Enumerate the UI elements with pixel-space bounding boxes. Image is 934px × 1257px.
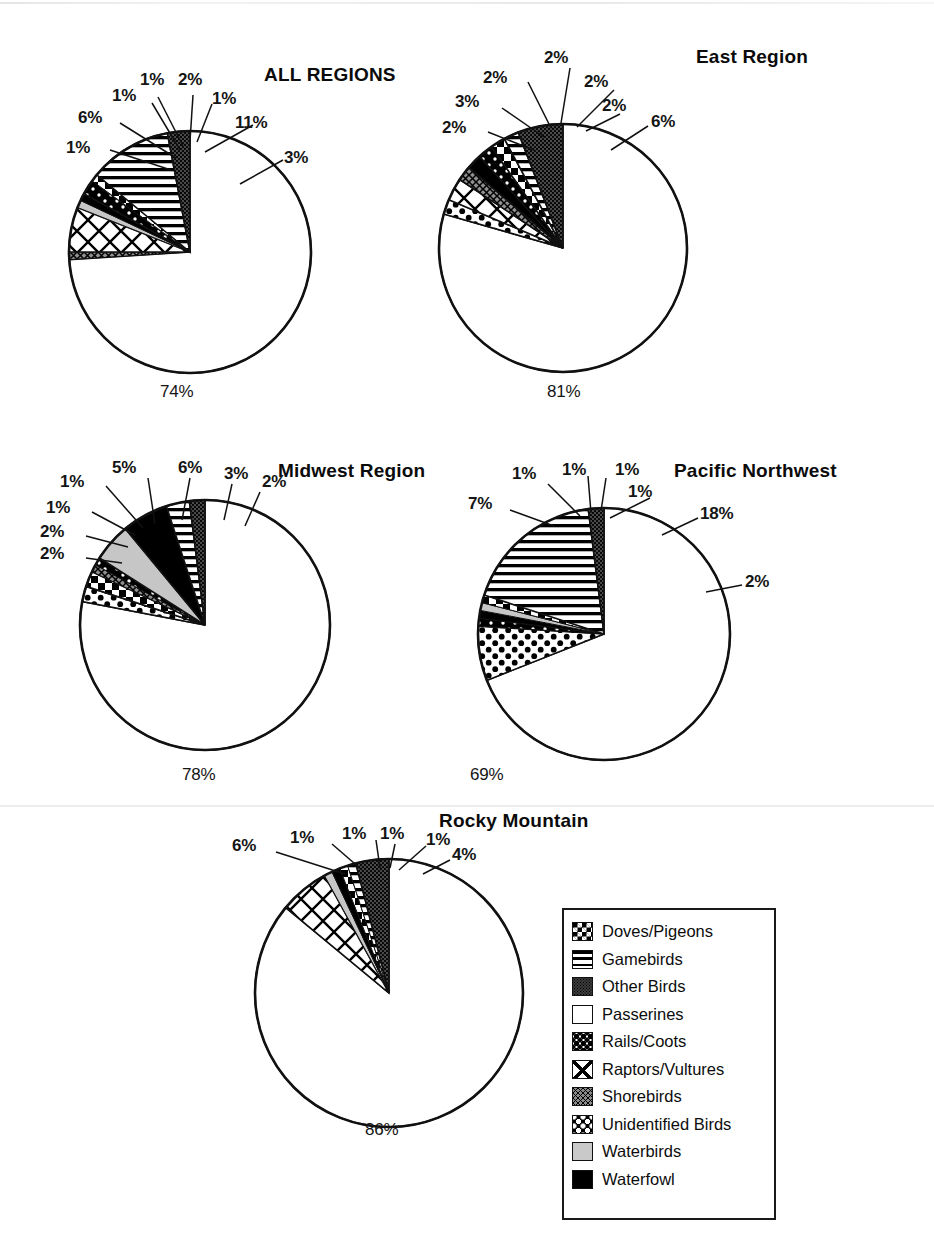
callout-east-region-3: 2% bbox=[483, 68, 507, 88]
callout-midwest-region-6: 6% bbox=[178, 458, 202, 478]
callout-rocky-mountain-5: 1% bbox=[426, 830, 450, 850]
legend-item-label: Gamebirds bbox=[602, 950, 683, 969]
callout-midwest-region-5: 5% bbox=[112, 458, 136, 478]
callout-pacific-northwest-2: 1% bbox=[512, 464, 536, 484]
panel-east-region: East Region 2% 3% 2% 2% 2% 2% 6% 81% bbox=[420, 0, 934, 415]
dark-stipple-swatch-icon bbox=[572, 977, 593, 996]
callout-rocky-mountain-6: 4% bbox=[452, 845, 476, 865]
solid-black-swatch-icon bbox=[572, 1170, 593, 1189]
coarse-dots-swatch-icon bbox=[572, 1032, 593, 1051]
callout-all-regions-5: 2% bbox=[178, 70, 202, 90]
callout-pacific-northwest-4: 1% bbox=[615, 460, 639, 480]
callout-pacific-northwest-1: 7% bbox=[468, 494, 492, 514]
legend-item[interactable]: Shorebirds bbox=[572, 1083, 764, 1111]
legend-item-label: Waterbirds bbox=[602, 1142, 681, 1161]
callout-east-region-4: 2% bbox=[544, 48, 568, 68]
callout-pacific-northwest-6: 18% bbox=[700, 504, 733, 524]
callout-east-region-7: 6% bbox=[651, 112, 675, 132]
legend-item[interactable]: Raptors/Vultures bbox=[572, 1056, 764, 1084]
light-gray-swatch-icon bbox=[572, 1142, 593, 1161]
callout-all-regions-2: 6% bbox=[78, 108, 102, 128]
callout-east-region-5: 2% bbox=[584, 72, 608, 92]
checkerboard-swatch-icon bbox=[572, 922, 593, 941]
callout-all-regions-8: 3% bbox=[284, 148, 308, 168]
callout-rocky-mountain-2: 1% bbox=[290, 828, 314, 848]
callout-pacific-northwest-5: 1% bbox=[628, 482, 652, 502]
legend-item[interactable]: Passerines bbox=[572, 1001, 764, 1029]
callout-east-region-6: 2% bbox=[602, 96, 626, 116]
pie-pacific-northwest bbox=[440, 380, 934, 790]
callout-rocky-mountain-3: 1% bbox=[342, 824, 366, 844]
bottom-label-pacific-northwest: 69% bbox=[470, 765, 503, 785]
pie-all-regions bbox=[0, 0, 460, 415]
callout-midwest-region-2: 2% bbox=[40, 522, 64, 542]
white-swatch-icon bbox=[572, 1005, 593, 1024]
callout-rocky-mountain-1: 6% bbox=[232, 836, 256, 856]
callout-midwest-region-4: 1% bbox=[60, 472, 84, 492]
chart-title-east-region: East Region bbox=[696, 46, 808, 68]
callout-midwest-region-7: 3% bbox=[224, 464, 248, 484]
callout-midwest-region-8: 2% bbox=[262, 472, 286, 492]
legend-item-label: Doves/Pigeons bbox=[602, 922, 713, 941]
panel-all-regions: ALL REGIONS 1% 6% 1% 1% 2% 1% 11% 3% 74% bbox=[0, 0, 460, 415]
large-crosshatch-swatch-icon bbox=[572, 1060, 593, 1079]
callout-all-regions-7: 11% bbox=[235, 113, 268, 133]
pie-midwest-region bbox=[0, 380, 470, 790]
panel-midwest-region: Midwest Region 2% 2% 1% 1% 5% 6% 3% 2% 7… bbox=[0, 380, 470, 790]
horizontal-lines-swatch-icon bbox=[572, 950, 593, 969]
legend-item[interactable]: Gamebirds bbox=[572, 946, 764, 974]
chart-title-pacific-northwest: Pacific Northwest bbox=[674, 460, 837, 482]
callout-rocky-mountain-4: 1% bbox=[380, 824, 404, 844]
pie-east-region bbox=[420, 0, 934, 415]
bird-group-legend: Doves/Pigeons Gamebirds Other Birds Pass… bbox=[562, 908, 776, 1220]
legend-item[interactable]: Other Birds bbox=[572, 973, 764, 1001]
legend-item-label: Rails/Coots bbox=[602, 1032, 686, 1051]
bottom-label-rocky-mountain: 86% bbox=[365, 1120, 398, 1140]
chart-title-midwest-region: Midwest Region bbox=[278, 460, 425, 482]
callout-pacific-northwest-3: 1% bbox=[562, 460, 586, 480]
legend-item-label: Waterfowl bbox=[602, 1170, 675, 1189]
callout-east-region-2: 3% bbox=[455, 92, 479, 112]
legend-item-label: Other Birds bbox=[602, 977, 685, 996]
legend-item[interactable]: Rails/Coots bbox=[572, 1028, 764, 1056]
callout-midwest-region-3: 1% bbox=[46, 498, 70, 518]
black-dots-swatch-icon bbox=[572, 1115, 593, 1134]
fine-crosshatch-swatch-icon bbox=[572, 1087, 593, 1106]
callout-all-regions-4: 1% bbox=[140, 70, 164, 90]
legend-item[interactable]: Unidentified Birds bbox=[572, 1111, 764, 1139]
legend-item-label: Unidentified Birds bbox=[602, 1115, 731, 1134]
callout-all-regions-6: 1% bbox=[212, 89, 236, 109]
legend-item-label: Passerines bbox=[602, 1005, 684, 1024]
callout-east-region-1: 2% bbox=[442, 118, 466, 138]
legend-item[interactable]: Waterbirds bbox=[572, 1138, 764, 1166]
legend-item-label: Shorebirds bbox=[602, 1087, 682, 1106]
bottom-label-midwest-region: 78% bbox=[182, 765, 215, 785]
legend-item-label: Raptors/Vultures bbox=[602, 1060, 724, 1079]
callout-midwest-region-1: 2% bbox=[40, 544, 64, 564]
chart-title-rocky-mountain: Rocky Mountain bbox=[439, 810, 589, 832]
callout-all-regions-3: 1% bbox=[112, 86, 136, 106]
callout-all-regions-1: 1% bbox=[66, 138, 90, 158]
chart-title-all-regions: ALL REGIONS bbox=[264, 64, 396, 86]
legend-item[interactable]: Doves/Pigeons bbox=[572, 918, 764, 946]
legend-item[interactable]: Waterfowl bbox=[572, 1166, 764, 1194]
callout-pacific-northwest-7: 2% bbox=[745, 572, 769, 592]
panel-pacific-northwest: Pacific Northwest 7% 1% 1% 1% 1% 18% 2% … bbox=[440, 380, 934, 790]
